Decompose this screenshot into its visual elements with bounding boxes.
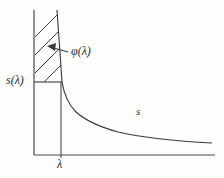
phi-of-lambda-label: φ(λ) <box>71 45 91 57</box>
lambda-axis-label: λ <box>57 158 62 170</box>
phi-arrow-head <box>47 43 56 51</box>
hatch-lines <box>10 0 120 152</box>
curve-s-label: s <box>136 106 140 117</box>
figure-container: s(λ) φ(λ) s λ <box>0 0 224 178</box>
figure-canvas <box>0 0 224 178</box>
s-of-lambda-label: s(λ) <box>6 74 24 86</box>
hatch-right-boundary <box>57 10 62 82</box>
